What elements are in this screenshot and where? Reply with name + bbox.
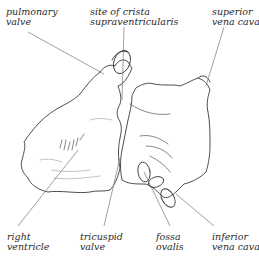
leader-fossa-ovalis <box>144 172 170 226</box>
label-pulmonary-valve: pulmonary valve <box>6 7 58 27</box>
label-right-ventricle: right ventricle <box>7 232 50 252</box>
heart-drawing <box>0 0 259 261</box>
leader-ivc <box>176 194 214 226</box>
label-superior-vena-cava: superior vena cava <box>212 7 259 27</box>
ivc-shape <box>158 186 178 209</box>
leader-tricuspid-valve <box>104 158 120 226</box>
label-tricuspid-valve: tricuspid valve <box>80 232 123 252</box>
label-fossa-ovalis: fossa ovalis <box>156 232 184 252</box>
right-ventricle-outline <box>21 60 132 193</box>
heart-diagram: pulmonary valve site of crista supravent… <box>0 0 259 261</box>
leader-svc <box>206 27 224 86</box>
leader-crista <box>122 27 124 100</box>
leader-pulmonary-valve <box>28 32 104 74</box>
leader-right-ventricle <box>18 150 78 226</box>
label-crista-supraventricularis: site of crista supraventricularis <box>90 7 178 27</box>
right-atrium-outline <box>121 78 211 198</box>
label-inferior-vena-cava: inferior vena cava <box>212 232 259 252</box>
